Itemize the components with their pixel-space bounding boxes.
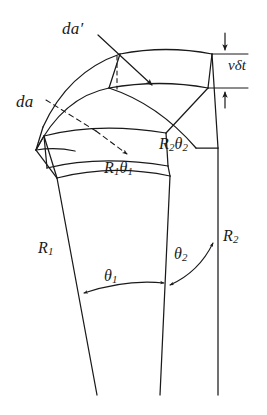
label-arc-outer-R: R [159, 135, 169, 152]
generator-middle [160, 176, 170, 395]
label-radius-outer: R2 [223, 228, 238, 245]
label-arc-outer: R2θ2 [159, 136, 188, 153]
label-da-base: da [16, 92, 34, 111]
label-v-delta-t: vδt [228, 58, 246, 73]
label-arc-inner-theta-sub: 1 [127, 165, 133, 177]
figure-canvas: da′ da vδt R1θ1 R2θ2 R1 R2 θ1 θ2 [0, 0, 267, 415]
outer-shell-upper-arc [43, 54, 120, 127]
theta1-angle-arc [84, 282, 164, 293]
left-facet-edge-b [36, 150, 57, 178]
label-radius-inner: R1 [38, 240, 53, 257]
label-arc-inner: R1θ1 [104, 160, 133, 177]
label-radius-outer-base: R [223, 227, 233, 244]
top-face-right-edge [208, 54, 212, 88]
label-da: da [16, 93, 34, 110]
label-radius-inner-sub: 1 [48, 245, 54, 257]
ruling-right-upper [166, 88, 208, 133]
label-radius-inner-base: R [38, 239, 48, 256]
label-angle-inner-sub: 1 [112, 273, 118, 285]
label-arc-inner-R: R [104, 159, 114, 176]
top-face-back-edge [120, 50, 212, 55]
label-angle-outer-sub: 2 [182, 251, 188, 263]
label-angle-outer-sym: θ [174, 245, 182, 262]
label-angle-outer: θ2 [174, 246, 187, 263]
generator-middle-link [168, 166, 170, 176]
outer-surface-curve-b [36, 149, 75, 151]
top-face-left-edge [109, 54, 120, 88]
da-leader-arrow [96, 131, 127, 154]
label-angle-inner-sym: θ [104, 267, 112, 284]
label-radius-outer-sub: 2 [233, 233, 239, 245]
top-face-front-edge [109, 84, 208, 89]
label-arc-outer-theta-sub: 2 [182, 141, 188, 153]
label-da-prime: da′ [62, 20, 84, 37]
diagram-linework [0, 0, 267, 415]
label-angle-inner: θ1 [104, 268, 117, 285]
outer-right-edge-upper [212, 54, 218, 148]
label-da-prime-base: da [62, 19, 80, 38]
generator-inner [57, 178, 97, 395]
label-da-prime-mark: ′ [80, 19, 84, 38]
mid-band-top-edge [44, 128, 166, 136]
